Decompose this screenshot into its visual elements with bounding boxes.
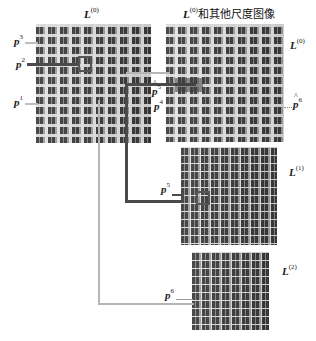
left-image-title: L(0) <box>84 9 99 20</box>
point-label-p6: p6 <box>164 290 175 301</box>
scale2-image <box>192 252 269 330</box>
point-label-p2: p2 <box>16 59 25 70</box>
p6-leader-line <box>176 299 193 300</box>
title-var: L <box>183 8 190 20</box>
title-suffix: 和其他尺度图像 <box>198 8 275 20</box>
point-label-p4: p4 <box>153 101 164 112</box>
p2-leader-line <box>27 63 79 66</box>
point-label-p3: p3 <box>14 36 23 47</box>
gray-horizontal-to-scale2 <box>98 303 194 305</box>
gray-cross-line <box>126 72 170 74</box>
point-label-p1: p1 <box>14 97 23 108</box>
p5-leader-line <box>172 194 184 196</box>
dark-horizontal-to-scale1 <box>125 200 183 203</box>
dark-vertical-connector <box>125 83 128 203</box>
gray-vertical-connector <box>98 100 100 305</box>
title-sup: (0) <box>91 6 99 14</box>
right-top-image-title: L(0)和其他尺度图像 <box>183 9 275 20</box>
p2-selection-box <box>78 56 92 72</box>
scale0-label: L(0) <box>290 40 305 51</box>
point-label-p6hat: p6 <box>293 99 302 110</box>
point-label-p5hat: p5 <box>151 86 162 97</box>
scale2-label: L(2) <box>282 266 297 277</box>
p6hat-leader-line <box>284 107 292 108</box>
p5hat-cluster <box>175 78 203 92</box>
title-var: L <box>84 8 91 20</box>
p1-leader-line <box>25 103 38 105</box>
point-label-p5: p5 <box>160 184 171 195</box>
title-sup: (0) <box>190 6 198 14</box>
scale1-label: L(1) <box>289 167 304 178</box>
p5-selection-box <box>196 191 210 205</box>
p3-leader-line <box>25 42 38 44</box>
